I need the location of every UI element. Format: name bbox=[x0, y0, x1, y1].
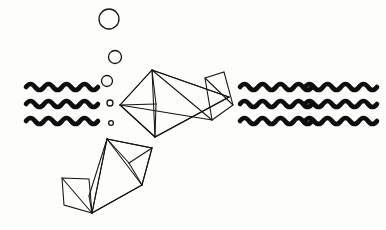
artboard: Two angular fish with bubbles and waves … bbox=[0, 0, 386, 230]
canvas-background bbox=[0, 0, 386, 230]
fish-illustration bbox=[0, 0, 386, 230]
